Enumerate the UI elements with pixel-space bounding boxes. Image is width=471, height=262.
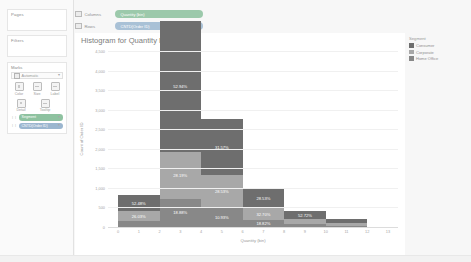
marks-label-button[interactable]: Label <box>47 82 63 96</box>
marks-color-label: Color <box>15 92 24 96</box>
y-axis-tick-label: 2,000 <box>95 146 105 151</box>
legend-swatch-icon <box>409 56 414 61</box>
bar-segment-label: 10.93% <box>215 215 229 220</box>
x-axis: Quantity (bin) 012345678910111213 <box>108 227 398 249</box>
marks-size-label: Size <box>34 92 41 96</box>
x-axis-tick-label: 6 <box>242 229 244 234</box>
drag-handle-icon[interactable]: ⋮⋮ <box>11 124 17 127</box>
y-axis-tick-label: 4,500 <box>95 49 105 54</box>
columns-shelf-label: Columns <box>85 12 115 17</box>
plot-area: 52.48%26.03%52.94%28.19%18.88%31.57%28.5… <box>108 51 398 241</box>
chevron-down-icon[interactable]: ▾ <box>58 74 60 78</box>
rows-shelf[interactable]: Rows CNTD(Order ID) <box>75 21 405 31</box>
legend-item-label: Corporate <box>416 50 434 55</box>
mark-type-icon <box>14 73 20 79</box>
x-axis-tick-label: 5 <box>221 229 223 234</box>
marks-detail-label: Detail <box>16 108 25 112</box>
chevron-down-icon[interactable]: ▾ <box>58 116 60 120</box>
left-sidebar: Pages Filters Marks Automatic ▾ Color <box>0 0 74 262</box>
legend-item[interactable]: Home Office <box>409 56 467 61</box>
bar-segment[interactable]: 26.03% <box>118 211 160 221</box>
bar-segment[interactable]: 10.93% <box>201 207 243 227</box>
columns-pill-quantity-bin[interactable]: Quantity (bin) <box>115 10 203 18</box>
size-icon <box>33 82 42 91</box>
x-axis-tick-label: 8 <box>283 229 285 234</box>
gridline <box>108 110 398 111</box>
bar-segment[interactable]: 52.48% <box>118 195 160 211</box>
bar-segment-label: 18.82% <box>256 221 270 226</box>
marks-buttons-row-1: Color Size Label <box>8 82 66 96</box>
marks-pill-row-orderid: ⋮⋮ CNTD(Order ID) ▾ <box>11 123 63 130</box>
marks-pill-segment[interactable]: Segment ▾ <box>19 114 64 121</box>
y-axis-tick-label: 4,000 <box>95 68 105 73</box>
marks-pill-cntd-order-id-label: CNTD(Order ID) <box>22 124 48 128</box>
bar-segment-label: 28.53% <box>256 196 270 201</box>
bar-segment[interactable]: 52.72% <box>284 211 326 219</box>
y-axis-tick-label: 0 <box>103 225 105 230</box>
bar-group[interactable] <box>326 219 368 227</box>
marks-color-button[interactable]: Color <box>11 82 27 96</box>
y-axis-tick-label: 500 <box>99 205 106 210</box>
x-axis-line <box>108 227 398 228</box>
y-axis: Count of Order ID 05001,0001,5002,0002,5… <box>75 51 108 227</box>
pages-shelf[interactable]: Pages <box>7 9 67 31</box>
plot-inner: 52.48%26.03%52.94%28.19%18.88%31.57%28.5… <box>108 51 398 227</box>
x-axis-tick-label: 12 <box>365 229 369 234</box>
bar-segment[interactable]: 28.53% <box>201 175 243 207</box>
rows-icon <box>75 23 82 30</box>
detail-icon <box>17 99 26 108</box>
legend-title: Segment <box>409 36 467 41</box>
filters-shelf-label: Filters <box>8 36 66 43</box>
legend-items: ConsumerCorporateHome Office <box>409 43 467 61</box>
marks-pill-segment-label: Segment <box>22 115 36 119</box>
marks-tooltip-label: Tooltip <box>40 108 50 112</box>
legend-item[interactable]: Corporate <box>409 50 467 55</box>
marks-detail-button[interactable]: Detail <box>13 99 29 113</box>
bar-segment-label: 28.19% <box>173 173 187 178</box>
bar-segment-label: 52.48% <box>132 201 146 206</box>
x-axis-title: Quantity (bin) <box>108 238 398 243</box>
label-icon <box>51 82 60 91</box>
y-axis-tick-label: 1,000 <box>95 185 105 190</box>
bar-segment-label: 32.70% <box>256 212 270 217</box>
marks-tooltip-button[interactable]: Tooltip <box>37 99 53 113</box>
x-axis-tick-label: 0 <box>117 229 119 234</box>
gridline <box>108 207 398 208</box>
chevron-down-icon[interactable]: ▾ <box>58 124 60 128</box>
bar-segment-label: 28.53% <box>215 189 229 194</box>
bar-segment[interactable]: 28.19% <box>160 152 202 199</box>
marks-size-button[interactable]: Size <box>29 82 45 96</box>
bar-segment[interactable]: 18.82% <box>243 220 285 227</box>
bar-segment[interactable]: 31.57% <box>201 119 243 175</box>
bar-group[interactable]: 31.57%28.53%10.93% <box>201 119 243 227</box>
bars-container: 52.48%26.03%52.94%28.19%18.88%31.57%28.5… <box>108 51 398 227</box>
marks-label-label: Label <box>51 92 60 96</box>
shelves-area: Columns Quantity (bin) Rows CNTD(Order I… <box>75 9 405 33</box>
legend-item[interactable]: Consumer <box>409 43 467 48</box>
bar-segment[interactable]: 18.88% <box>160 199 202 227</box>
x-axis-tick-label: 1 <box>138 229 140 234</box>
x-axis-tick-label: 9 <box>304 229 306 234</box>
bar-group[interactable]: 52.48%26.03% <box>118 195 160 227</box>
bar-segment[interactable]: 28.53% <box>243 188 285 208</box>
bar-group[interactable]: 52.72% <box>284 211 326 227</box>
columns-shelf[interactable]: Columns Quantity (bin) <box>75 9 405 19</box>
x-axis-tick-label: 11 <box>344 229 348 234</box>
marks-pill-cntd-order-id[interactable]: CNTD(Order ID) ▾ <box>19 123 64 130</box>
gridline <box>108 71 398 72</box>
legend-swatch-icon <box>409 43 414 48</box>
bar-segment-label: 52.72% <box>298 213 312 218</box>
mark-type-label: Automatic <box>22 74 39 78</box>
columns-pill-label: Quantity (bin) <box>121 12 145 17</box>
bar-segment[interactable]: 52.94% <box>160 21 202 152</box>
bar-segment[interactable]: 32.70% <box>243 208 285 220</box>
filters-shelf[interactable]: Filters <box>7 35 67 57</box>
gridline <box>108 129 398 130</box>
y-axis-tick-label: 1,500 <box>95 166 105 171</box>
marks-card-title: Marks <box>8 63 66 70</box>
y-axis-title: Count of Order ID <box>79 109 84 169</box>
drag-handle-icon[interactable]: ⋮⋮ <box>11 116 17 119</box>
columns-icon <box>75 11 82 18</box>
pages-shelf-label: Pages <box>8 10 66 17</box>
mark-type-selector[interactable]: Automatic ▾ <box>11 72 63 79</box>
